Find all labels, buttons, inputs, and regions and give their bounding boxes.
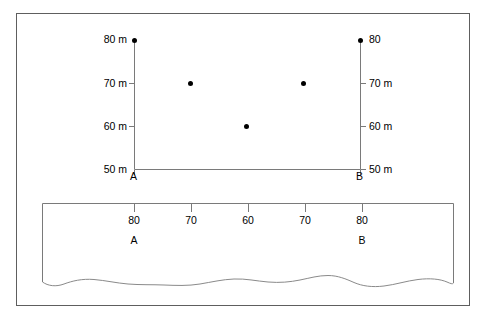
left-axis-tick-label-70: 70 m bbox=[72, 78, 127, 89]
profile-point-70-left bbox=[188, 81, 193, 86]
left-axis-tick-label-50: 50 m bbox=[72, 164, 127, 175]
profile-point-70-right bbox=[301, 81, 306, 86]
strip-station-label-a: A bbox=[114, 235, 154, 246]
left-axis-tick-label-60: 60 m bbox=[72, 121, 127, 132]
left-axis-tick-label-80: 80 m bbox=[72, 34, 127, 45]
cross-section-plot: 80 m 70 m 60 m 50 m 80 70 m 60 m 50 m A … bbox=[0, 0, 489, 200]
station-label-a: A bbox=[130, 171, 137, 182]
figure-root: 80 m 70 m 60 m 50 m 80 70 m 60 m 50 m A … bbox=[0, 0, 489, 319]
station-label-b: B bbox=[356, 171, 363, 182]
right-axis-tick-label-60: 60 m bbox=[369, 121, 429, 132]
strip-tick-label-0: 80 bbox=[114, 215, 154, 226]
strip-tick-label-1: 70 bbox=[171, 215, 211, 226]
strip-torn-bottom-edge bbox=[43, 276, 454, 287]
terrain-strip: 80 70 60 70 80 A B bbox=[42, 203, 454, 291]
right-axis-tick-label-70: 70 m bbox=[369, 78, 429, 89]
right-axis-tick-label-80: 80 bbox=[369, 34, 429, 45]
profile-point-b-80 bbox=[358, 38, 363, 43]
right-axis-tick-label-50: 50 m bbox=[369, 164, 429, 175]
profile-point-60-middle bbox=[244, 124, 249, 129]
strip-tick-label-3: 70 bbox=[285, 215, 325, 226]
profile-point-a-80 bbox=[132, 38, 137, 43]
strip-station-label-b: B bbox=[342, 235, 382, 246]
strip-tick-label-2: 60 bbox=[228, 215, 268, 226]
strip-tick-label-4: 80 bbox=[342, 215, 382, 226]
